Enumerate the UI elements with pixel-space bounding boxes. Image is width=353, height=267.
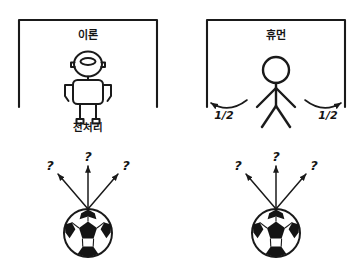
arrow-left-human <box>246 174 276 209</box>
robot-panel: 이론 <box>0 0 176 267</box>
soccer-ball-human <box>252 209 300 257</box>
ball-group-human <box>177 0 353 267</box>
arrow-right-robot <box>88 174 118 209</box>
question-mark-up-robot: ? <box>84 150 92 163</box>
arrow-left-robot <box>58 174 88 209</box>
question-mark-right-human: ? <box>310 159 318 172</box>
question-mark-left-human: ? <box>234 159 242 172</box>
arrow-right-human <box>276 174 306 209</box>
question-mark-up-human: ? <box>272 150 280 163</box>
diagram-canvas: 이론 <box>0 0 353 267</box>
human-panel: 휴먼 1/2 1/2 <box>177 0 353 267</box>
question-mark-right-robot: ? <box>122 159 130 172</box>
soccer-ball-robot <box>64 209 112 257</box>
ball-group-robot <box>0 0 176 267</box>
question-mark-left-robot: ? <box>46 159 54 172</box>
